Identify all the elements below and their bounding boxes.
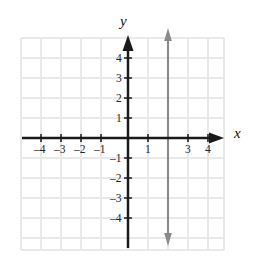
x-axis-label: x — [234, 126, 241, 141]
plot-line-up-arrowhead — [164, 28, 172, 41]
x-tick-label-1: 1 — [145, 144, 151, 156]
y-tick-label-neg2: –2 — [110, 173, 122, 185]
y-tick-label-2: 2 — [116, 93, 122, 105]
y-tick-label-1: 1 — [116, 113, 122, 125]
x-axis — [22, 133, 224, 144]
y-tick-label-neg3: –3 — [110, 193, 122, 205]
x-tick-label-neg1: –1 — [94, 144, 106, 156]
x-tick-label-neg4: –4 — [34, 144, 46, 156]
x-tick-label-neg3: –3 — [54, 144, 66, 156]
y-tick-label-neg1: –1 — [110, 153, 122, 165]
coordinate-plane-figure: x y –4 –3 –2 –1 1 3 4 4 3 2 1 –1 –2 –3 –… — [0, 0, 260, 271]
x-tick-label-3: 3 — [185, 144, 191, 156]
y-tick-label-neg4: –4 — [110, 213, 122, 225]
y-axis — [123, 35, 134, 248]
x-tick-label-neg2: –2 — [74, 144, 86, 156]
y-axis-label: y — [120, 14, 127, 29]
coordinate-plane-canvas — [0, 0, 260, 271]
plot-line-down-arrowhead — [164, 233, 172, 246]
x-axis-arrowhead — [209, 133, 224, 144]
x-tick-label-4: 4 — [205, 144, 211, 156]
y-tick-label-4: 4 — [116, 53, 122, 65]
grid-lines — [21, 38, 224, 250]
y-tick-label-3: 3 — [116, 73, 122, 85]
